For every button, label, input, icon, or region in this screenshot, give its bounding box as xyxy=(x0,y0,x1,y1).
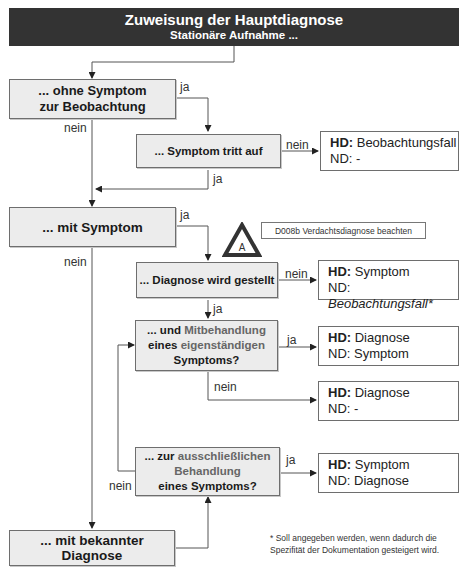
hd-value: Beobachtungsfall xyxy=(353,135,456,150)
result-nd-line: ND: Beobachtungsfall* xyxy=(328,280,458,312)
ausschliesslich-highlight: ausschließlichen xyxy=(178,450,271,462)
decision-mit-symptom: ... mit Symptom xyxy=(9,207,176,247)
result-symptom-diagnose: HD: Symptom ND: Diagnose xyxy=(318,453,459,493)
decision-ausschliesslich-line3: eines Symptoms? xyxy=(158,479,256,494)
result-hd-line: HD: Diagnose xyxy=(328,385,458,401)
footnote-line2: Spezifität der Dokumentation gesteigert … xyxy=(270,544,439,556)
result-hd-line: HD: Symptom xyxy=(328,457,458,473)
decision-mitbehandlung: ... und Mitbehandlung eines eigenständig… xyxy=(135,320,278,371)
hd-label: HD: xyxy=(328,330,351,345)
decision-ausschliesslich-line1: ... zur ausschließlichen xyxy=(145,449,271,464)
hd-value: Diagnose xyxy=(351,385,410,400)
decision-ohne-symptom-line2: zur Beobachtung xyxy=(39,99,145,115)
edge-label-ja: ja xyxy=(213,172,222,186)
nd-label: ND: xyxy=(328,401,350,416)
hd-value: Symptom xyxy=(351,457,410,472)
nd-label: ND: xyxy=(328,346,350,361)
result-hd-line: HD: Beobachtungsfall xyxy=(330,135,458,151)
decision-ausschliesslich-line2: Behandlung xyxy=(174,464,240,479)
hd-label: HD: xyxy=(328,385,351,400)
warning-note: D008b Verdachtsdiagnose beachten xyxy=(261,222,426,239)
decision-symptom-tritt-auf: ... Symptom tritt auf xyxy=(136,134,281,168)
flowchart-header: Zuweisung der Hauptdiagnose Stationäre A… xyxy=(9,8,459,46)
edge-label-ja: ja xyxy=(180,208,189,222)
nd-value: Symptom xyxy=(350,346,409,361)
nd-value: - xyxy=(352,151,360,166)
decision-mitbehandlung-line3: Symptoms? xyxy=(174,353,240,368)
result-nd-line: ND: Diagnose xyxy=(328,473,458,489)
result-diagnose-symptom: HD: Diagnose ND: Symptom xyxy=(318,326,459,366)
edge-label-ja: ja xyxy=(286,453,295,467)
warning-icon-letter: A xyxy=(239,242,246,253)
decision-bekannte-diagnose-label: ... mit bekannter Diagnose xyxy=(10,533,174,563)
decision-symptom-tritt-auf-label: ... Symptom tritt auf xyxy=(155,145,263,157)
decision-mitbehandlung-line2: eines eigenständigen xyxy=(148,338,265,353)
nd-label: ND: xyxy=(330,151,352,166)
edge-label-ja: ja xyxy=(213,302,222,316)
mitbehandlung-prefix: ... und xyxy=(147,324,184,336)
edge-label-nein: nein xyxy=(109,479,132,493)
decision-diagnose-gestellt: ... Diagnose wird gestellt xyxy=(136,262,278,298)
mitbehandlung-highlight: Mitbehandlung xyxy=(184,324,266,336)
edge-label-nein: nein xyxy=(214,380,237,394)
edge-label-nein: nein xyxy=(64,255,87,269)
mitbehandlung-highlight2: eigenständigen xyxy=(181,339,265,351)
ausschliesslich-prefix: ... zur xyxy=(145,450,178,462)
edge-label-nein: nein xyxy=(64,121,87,135)
decision-ausschliesslich: ... zur ausschließlichen Behandlung eine… xyxy=(135,447,280,496)
edge-label-nein: nein xyxy=(286,138,309,152)
header-title: Zuweisung der Hauptdiagnose xyxy=(9,8,459,28)
hd-label: HD: xyxy=(328,264,351,279)
header-subtitle: Stationäre Aufnahme ... xyxy=(9,28,459,42)
hd-label: HD: xyxy=(328,457,351,472)
nd-label: ND: xyxy=(328,280,350,295)
nd-label: ND: xyxy=(328,473,350,488)
result-nd-line: ND: Symptom xyxy=(328,346,458,362)
nd-value: - xyxy=(350,401,358,416)
result-hd-line: HD: Diagnose xyxy=(328,330,458,346)
hd-value: Symptom xyxy=(351,264,410,279)
edge-label-ja: ja xyxy=(180,80,189,94)
warning-triangle-icon: A xyxy=(222,222,262,258)
decision-ohne-symptom-line1: ... ohne Symptom xyxy=(38,83,146,99)
edge-label-ja: ja xyxy=(287,333,296,347)
edge-label-nein: nein xyxy=(285,267,308,281)
result-diagnose-none: HD: Diagnose ND: - xyxy=(318,381,459,421)
decision-mit-symptom-label: ... mit Symptom xyxy=(42,220,143,235)
decision-bekannte-diagnose: ... mit bekannter Diagnose xyxy=(9,530,175,566)
decision-ohne-symptom: ... ohne Symptom zur Beobachtung xyxy=(9,79,176,119)
result-nd-line: ND: - xyxy=(330,151,458,167)
nd-value: Beobachtungsfall* xyxy=(328,296,433,311)
result-nd-line: ND: - xyxy=(328,401,458,417)
result-hd-line: HD: Symptom xyxy=(328,264,458,280)
warning-note-text: D008b Verdachtsdiagnose beachten xyxy=(275,226,412,236)
nd-value: Diagnose xyxy=(350,473,409,488)
mitbehandlung-line2a: eines xyxy=(148,339,181,351)
result-beobachtungsfall: HD: Beobachtungsfall ND: - xyxy=(320,131,459,171)
hd-value: Diagnose xyxy=(351,330,410,345)
footnote: * Soll angegeben werden, wenn dadurch di… xyxy=(270,532,439,556)
decision-diagnose-gestellt-label: ... Diagnose wird gestellt xyxy=(140,274,275,286)
hd-label: HD: xyxy=(330,135,353,150)
decision-mitbehandlung-line1: ... und Mitbehandlung xyxy=(147,323,266,338)
footnote-line1: * Soll angegeben werden, wenn dadurch di… xyxy=(270,532,439,544)
result-symptom-beobachtung: HD: Symptom ND: Beobachtungsfall* xyxy=(318,260,459,300)
